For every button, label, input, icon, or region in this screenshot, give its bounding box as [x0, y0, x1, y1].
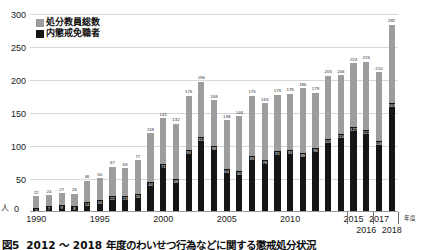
- x-axis-separator: [398, 212, 399, 224]
- bar-value-label-sub: 22: [110, 197, 115, 201]
- bar-group: 210106: [376, 72, 382, 211]
- bar-group: 17691: [274, 95, 280, 211]
- x-axis-tick-1990: 1990: [26, 215, 46, 224]
- y-axis-label-250: 250: [0, 44, 26, 53]
- bar-group: 18688: [300, 88, 306, 211]
- bar-value-label-sub: 8: [73, 207, 75, 211]
- bar-group: 282163: [389, 25, 395, 211]
- y-axis-label-100: 100: [0, 143, 26, 152]
- bar-series-container: 2252472792684614501667226523772611844141…: [30, 14, 398, 212]
- bar-value-label-sub: 26: [136, 195, 141, 199]
- bar-sub-segment: [338, 134, 344, 211]
- bar-sub-segment: [249, 156, 255, 211]
- bar-value-label-total: 210: [375, 67, 382, 71]
- bar-group: 17996: [312, 93, 318, 211]
- bar-value-label-sub: 112: [198, 138, 205, 142]
- bar-value-label-sub: 7: [48, 207, 50, 211]
- bar-value-label-sub: 93: [186, 151, 191, 155]
- bar-group: 196112: [198, 82, 204, 211]
- figure-number: 図5: [2, 240, 19, 250]
- bar-value-label-sub: 64: [224, 170, 229, 174]
- bar-group: 268: [71, 194, 77, 211]
- bar-value-label-sub: 71: [161, 165, 166, 169]
- x-axis-tick-2018: 2018: [382, 226, 402, 235]
- chart-figure: 300 250 200 150 100 50 22524727926846145…: [0, 0, 429, 250]
- bar-group: 6722: [109, 167, 115, 211]
- bar-value-label-sub: 96: [313, 149, 318, 153]
- bar-value-label-sub: 106: [375, 142, 382, 146]
- bar-sub-segment: [262, 160, 268, 211]
- bar-group: 17583: [249, 96, 255, 212]
- bar-sub-segment: [312, 148, 318, 211]
- bar-value-label-sub: 93: [288, 151, 293, 155]
- bar-value-label-sub: 163: [388, 104, 395, 108]
- bar-group: 13248: [173, 124, 179, 211]
- bar-value-label-sub: 44: [148, 183, 153, 187]
- bar-value-label-total: 50: [97, 173, 102, 177]
- bar-value-label-total: 179: [312, 87, 319, 91]
- bar-group: 4614: [84, 181, 90, 211]
- legend-swatch-total: [36, 19, 44, 27]
- bar-sub-segment: [350, 127, 356, 211]
- bar-value-label-total: 186: [299, 83, 306, 87]
- legend-item-total: 処分教員総数: [36, 18, 100, 27]
- bar-group: 17893: [287, 94, 293, 211]
- bar-value-label-total: 141: [160, 113, 167, 117]
- bar-value-label-total: 282: [388, 19, 395, 23]
- bar-value-label-total: 144: [236, 111, 243, 115]
- bar-sub-segment: [211, 146, 217, 211]
- bar-group: 16378: [262, 103, 268, 211]
- bar-value-label-total: 224: [350, 58, 357, 62]
- bar-group: 6523: [122, 168, 128, 211]
- bar-value-label-total: 65: [123, 163, 128, 167]
- bar-group: 225: [33, 196, 39, 211]
- y-axis-label-50: 50: [0, 176, 26, 185]
- figure-caption: 図52012 ～ 2018 年度のわいせつ行為などに関する懲戒処分状況: [2, 240, 429, 250]
- bar-value-label-sub: 127: [350, 128, 357, 132]
- bar-value-label-sub: 9: [61, 206, 63, 210]
- bar-value-label-total: 132: [172, 118, 179, 122]
- legend-label-total: 処分教員総数: [46, 18, 100, 27]
- x-axis-tick-2005: 2005: [217, 215, 237, 224]
- bar-value-label-sub: 116: [338, 135, 345, 139]
- bar-group: 14460: [236, 116, 242, 211]
- bar-value-label-sub: 16: [97, 201, 102, 205]
- bar-value-label-total: 67: [110, 161, 115, 165]
- bar-sub-segment: [376, 141, 382, 211]
- bar-group: 13864: [224, 120, 230, 211]
- bar-value-label-total: 24: [47, 190, 52, 194]
- bar-value-label-sub: 83: [250, 157, 255, 161]
- bar-value-label-total: 138: [223, 115, 230, 119]
- x-axis-separator: [373, 212, 374, 224]
- x-axis-unit: 年度: [404, 216, 416, 222]
- plot-area: 2252472792684614501667226523772611844141…: [30, 14, 398, 212]
- y-axis-unit: 人: [1, 205, 9, 213]
- bar-sub-segment: [160, 164, 166, 211]
- bar-value-label-sub: 98: [212, 147, 217, 151]
- bar-value-label-total: 226: [363, 56, 370, 60]
- x-axis-separator: [347, 212, 348, 224]
- bar-sub-segment: [274, 151, 280, 211]
- bar-value-label-sub: 109: [325, 140, 332, 144]
- bar-value-label-total: 163: [261, 98, 268, 102]
- x-axis-tick-2000: 2000: [153, 215, 173, 224]
- bar-value-label-sub: 88: [300, 154, 305, 158]
- bar-sub-segment: [224, 169, 230, 211]
- bar-value-label-sub: 60: [237, 172, 242, 176]
- bar-sub-segment: [198, 137, 204, 211]
- bar-value-label-total: 196: [198, 76, 205, 80]
- bar-value-label-sub: 91: [275, 152, 280, 156]
- bar-value-label-sub: 14: [85, 203, 90, 207]
- bar-group: 206116: [338, 75, 344, 211]
- bar-group: 16898: [211, 100, 217, 211]
- bar-sub-segment: [389, 103, 395, 211]
- bar-value-label-total: 168: [210, 95, 217, 99]
- bar-group: 5016: [97, 178, 103, 211]
- bar-value-label-total: 46: [85, 175, 90, 179]
- bar-group: 247: [46, 195, 52, 211]
- bar-group: 279: [59, 193, 65, 211]
- bar-value-label-total: 22: [34, 191, 39, 195]
- bar-value-label-total: 178: [286, 88, 293, 92]
- y-axis-label-200: 200: [0, 77, 26, 86]
- bar-sub-segment: [236, 171, 242, 211]
